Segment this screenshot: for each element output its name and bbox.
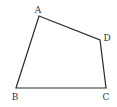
vertex-label-c: C bbox=[103, 92, 110, 102]
quadrilateral-diagram: A B C D bbox=[0, 0, 117, 107]
quadrilateral-abcd bbox=[16, 16, 106, 88]
vertex-label-a: A bbox=[34, 5, 42, 15]
vertex-label-d: D bbox=[103, 33, 110, 43]
vertex-label-b: B bbox=[12, 92, 19, 102]
